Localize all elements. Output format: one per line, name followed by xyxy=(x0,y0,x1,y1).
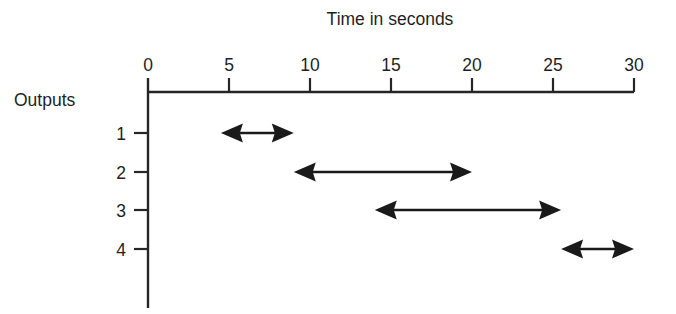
y-row-label-1: 1 xyxy=(116,124,126,144)
x-tick-label-25: 25 xyxy=(543,55,562,75)
x-tick-label-15: 15 xyxy=(381,55,400,75)
x-tick-label-5: 5 xyxy=(224,55,234,75)
arrowhead-end xyxy=(612,240,634,259)
arrow-bars-layer xyxy=(221,124,634,259)
x-axis-ticks xyxy=(229,78,634,92)
y-row-label-2: 2 xyxy=(116,163,126,183)
arrow-bar-output-2 xyxy=(294,163,472,182)
arrow-bar-output-1 xyxy=(221,124,294,143)
chart-canvas: Time in seconds 0 5 10 15 20 25 30 Outpu… xyxy=(0,0,676,314)
arrowhead-start xyxy=(294,163,316,182)
x-tick-label-20: 20 xyxy=(462,55,482,75)
x-tick-label-30: 30 xyxy=(624,55,644,75)
arrowhead-end xyxy=(272,124,294,143)
arrow-bar-output-3 xyxy=(375,201,561,220)
arrow-bar-output-4 xyxy=(561,240,634,259)
arrowhead-start xyxy=(221,124,243,143)
chart-title: Time in seconds xyxy=(327,9,454,29)
arrowhead-end xyxy=(450,163,472,182)
arrowhead-start xyxy=(561,240,583,259)
y-row-label-3: 3 xyxy=(116,201,126,221)
x-tick-label-10: 10 xyxy=(300,55,320,75)
y-row-label-4: 4 xyxy=(116,240,126,260)
arrowhead-end xyxy=(539,201,561,220)
arrowhead-start xyxy=(375,201,397,220)
timing-diagram-chart: Time in seconds 0 5 10 15 20 25 30 Outpu… xyxy=(0,0,676,314)
y-axis-name: Outputs xyxy=(14,90,76,110)
x-tick-label-0: 0 xyxy=(143,55,153,75)
y-axis-ticks xyxy=(134,133,148,249)
